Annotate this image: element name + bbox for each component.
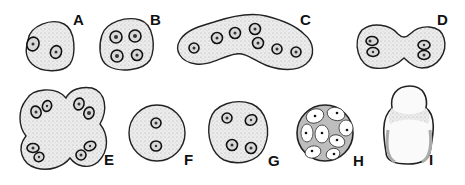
cell-d (357, 25, 445, 68)
cell-h (297, 105, 353, 162)
cell-g (209, 102, 268, 163)
label-h: H (353, 153, 364, 168)
cell-i (384, 86, 434, 164)
cell-f (129, 105, 185, 161)
label-f: F (184, 152, 193, 167)
cell-e (20, 87, 107, 169)
label-g: G (268, 153, 280, 168)
label-d: D (437, 12, 448, 27)
cell-c (178, 14, 313, 69)
cell-a (25, 22, 74, 71)
label-b: B (150, 12, 161, 27)
label-a: A (73, 12, 84, 27)
label-e: E (104, 152, 114, 167)
cell-diagram (0, 0, 465, 185)
label-c: C (300, 12, 311, 27)
label-i: I (429, 152, 433, 167)
cell-b (100, 19, 153, 70)
